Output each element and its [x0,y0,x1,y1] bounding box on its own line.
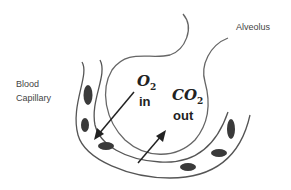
o2-formula: O2 [137,72,156,92]
o2-subscript: 2 [150,82,156,92]
co2-direction: out [173,108,193,123]
red-blood-cell [227,119,235,139]
co2-symbol: CO [172,86,197,104]
red-blood-cell [180,163,196,171]
red-blood-cell [81,118,89,132]
co2-out-arrow [138,135,162,163]
co2-subscript: 2 [197,96,203,106]
alveolus-label: Alveolus [236,21,270,33]
o2-symbol: O [137,72,150,90]
blood-capillary-label-line2: Capillary [16,92,51,104]
red-blood-cell [98,142,114,150]
red-blood-cell [84,85,93,105]
co2-formula: CO2 [172,86,203,106]
o2-direction: in [139,94,151,109]
gas-exchange-diagram: Alveolus Blood Capillary O2 in CO2 out [0,0,291,190]
red-blood-cell [211,149,227,157]
capillary-outer-wall [76,62,250,178]
alveolus-outline [106,14,228,154]
blood-capillary-label-line1: Blood [16,78,39,90]
